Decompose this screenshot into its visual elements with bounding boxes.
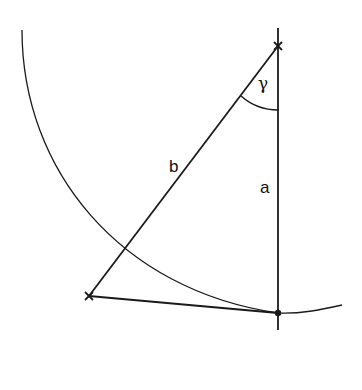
side-c-line <box>89 296 278 313</box>
angle-gamma-label: γ <box>258 73 268 93</box>
angle-gamma-arc <box>241 96 278 110</box>
side-b-label: b <box>169 157 178 176</box>
side-a-label: a <box>260 178 270 197</box>
triangle-diagram: γ b a <box>0 0 362 390</box>
side-b-line <box>89 46 278 296</box>
dot-icon-bottom <box>275 310 281 316</box>
